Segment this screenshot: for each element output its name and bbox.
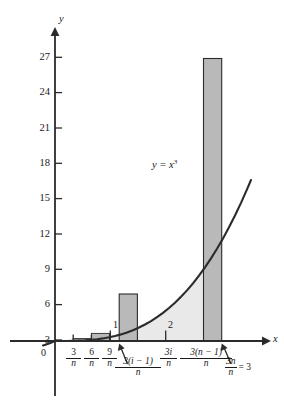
fraction-numerator: 3n [225, 357, 237, 367]
y-tick-label-24: 24 [28, 87, 50, 98]
y-tick-label-3: 3 [28, 335, 50, 346]
rect-nth [204, 59, 222, 342]
fraction-denominator: n [115, 367, 161, 378]
fraction-stack: 3n n [225, 357, 237, 378]
fraction-denominator: n [84, 358, 99, 369]
fraction-denominator: n [225, 367, 237, 378]
y-tick-label-21: 21 [28, 123, 50, 134]
x-axis-arrowhead [262, 337, 271, 346]
y-tick-label-12: 12 [28, 229, 50, 240]
x-tick-label-3-over-n: 3 n [66, 348, 81, 369]
curve-equation-base: y = x [152, 159, 174, 170]
x-axis-label: x [273, 334, 278, 345]
y-tick-label-15: 15 [28, 193, 50, 204]
x-label-3n-over-n-equals-3: 3n n = 3 [225, 357, 251, 378]
x-label-3i-over-n: 3i n [160, 348, 177, 369]
curve-equation-label: y = x3 [152, 160, 177, 171]
y-axis-arrowhead [51, 27, 60, 36]
x-tick-label-1: 1 [113, 320, 118, 330]
x-tick-label-2: 2 [168, 320, 173, 330]
fraction-denominator: n [66, 358, 81, 369]
y-tick-label-18: 18 [28, 158, 50, 169]
x-tick-label-6-over-n: 6 n [84, 348, 99, 369]
y-tick-label-9: 9 [28, 264, 50, 275]
y-axis-ticks [55, 57, 62, 340]
fraction-numerator: 3(i − 1) [115, 357, 161, 367]
fraction-numerator: 3 [66, 348, 81, 358]
y-tick-label-6: 6 [28, 299, 50, 310]
fraction-numerator: 3i [160, 348, 177, 358]
area-under-curve [55, 238, 222, 341]
curve-equation-exponent: 3 [174, 158, 178, 166]
riemann-sum-figure: y x 3 6 9 12 15 18 21 24 27 0 1 2 3 n 6 … [0, 0, 284, 406]
fraction-denominator: n [160, 358, 177, 369]
fraction-equals-tail: = 3 [237, 362, 251, 372]
fraction-numerator: 6 [84, 348, 99, 358]
y-tick-label-27: 27 [28, 52, 50, 63]
y-axis-label: y [59, 14, 64, 25]
x-label-3-i-minus-1-over-n: 3(i − 1) n [115, 357, 161, 378]
origin-label: 0 [41, 348, 46, 358]
